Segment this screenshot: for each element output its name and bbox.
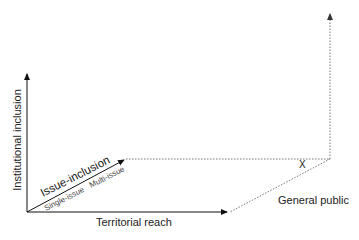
x-marker: X	[299, 159, 306, 170]
general-public-label: General public	[278, 194, 349, 206]
diagram-svg: Institutional inclusion Territorial reac…	[0, 0, 359, 240]
institutional-inclusion-label: Institutional inclusion	[11, 89, 23, 191]
territorial-reach-label: Territorial reach	[96, 216, 172, 228]
diagram-canvas: Institutional inclusion Territorial reac…	[0, 0, 359, 240]
